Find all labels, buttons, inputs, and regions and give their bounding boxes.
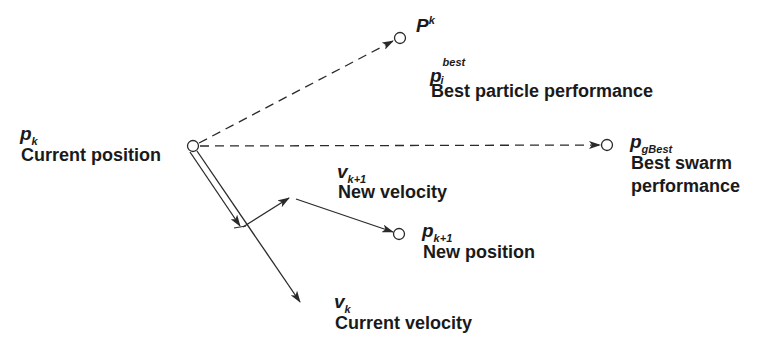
particle-best-label: Best particle performance <box>431 81 653 101</box>
dashed-arrow-to-particle-best <box>199 41 393 143</box>
symbol-base: p <box>630 131 642 152</box>
particle-best-node <box>395 33 406 44</box>
particle-best-marker-symbol: Pk <box>416 10 435 36</box>
symbol-base: v <box>337 161 348 182</box>
current-position-node <box>188 141 199 152</box>
swarm-best-label-line2: performance <box>631 176 740 196</box>
current-position-label: Current position <box>21 145 161 165</box>
symbol-base: p <box>20 123 32 144</box>
current-velocity-arrow <box>197 151 300 302</box>
symbol-base: v <box>334 291 345 312</box>
dashed-arrow-to-swarm-best <box>200 145 600 146</box>
new-velocity-label: New velocity <box>338 182 447 202</box>
swarm-best-label-line1: Best swarm <box>631 153 732 173</box>
symbol-base: P <box>416 15 429 36</box>
inertia-component-arrow <box>190 152 240 226</box>
symbol-superscript: best <box>443 52 466 72</box>
new-position-node <box>394 229 405 240</box>
new-position-label: New position <box>423 242 535 262</box>
attraction-component-arrow <box>243 198 289 227</box>
current-velocity-label: Current velocity <box>335 313 472 333</box>
symbol-superscript: k <box>429 14 435 26</box>
new-velocity-arrow <box>296 199 393 232</box>
symbol-base: p <box>422 220 434 241</box>
swarm-best-node <box>602 140 613 151</box>
